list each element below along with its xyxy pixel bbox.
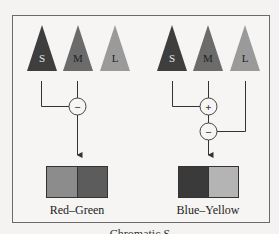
m-cone-label: M — [73, 52, 83, 64]
l-cone-label: L — [242, 52, 249, 64]
s-cone-label: S — [169, 52, 175, 64]
figure-caption: Chromatic S — [110, 227, 170, 234]
l-cone-label: L — [112, 52, 119, 64]
minus-operator-sign: − — [205, 126, 211, 138]
yellow-swatch — [209, 167, 239, 198]
s-cone-label: S — [39, 52, 45, 64]
green-swatch — [78, 167, 108, 198]
opponent-channels-diagram: S M L − Red–Green S M L + − — [0, 0, 279, 234]
m-cone-label: M — [203, 52, 213, 64]
blue-yellow-label: Blue–Yellow — [177, 203, 240, 217]
minus-operator-sign: − — [74, 101, 80, 113]
plus-operator-sign: + — [205, 101, 211, 113]
red-swatch — [47, 167, 78, 198]
blue-swatch — [179, 167, 209, 198]
red-green-label: Red–Green — [50, 203, 105, 217]
